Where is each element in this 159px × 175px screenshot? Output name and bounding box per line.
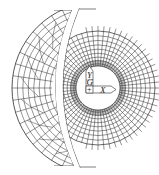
x-axis-label: X: [99, 85, 106, 95]
origin-marker: +: [87, 85, 92, 94]
mesh-diagram: Y G + X: [0, 0, 159, 175]
mesh-figure: Y G + X: [0, 0, 159, 175]
